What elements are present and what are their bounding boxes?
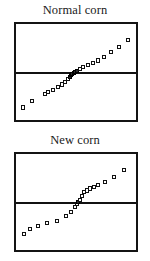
data-point bbox=[85, 188, 89, 192]
data-point bbox=[81, 65, 85, 69]
data-point bbox=[45, 221, 49, 225]
chart-panel-new-corn: New corn bbox=[0, 130, 150, 261]
chart-title-new-corn: New corn bbox=[0, 132, 150, 148]
data-point bbox=[126, 38, 130, 42]
data-point bbox=[102, 55, 106, 59]
data-point bbox=[103, 180, 107, 184]
reference-line-new-corn bbox=[16, 202, 136, 204]
data-point bbox=[43, 92, 47, 96]
data-point bbox=[88, 186, 92, 190]
data-point bbox=[92, 185, 96, 189]
data-point bbox=[51, 88, 55, 92]
reference-line-normal-corn bbox=[16, 72, 136, 74]
data-point bbox=[96, 183, 100, 187]
data-point bbox=[63, 80, 67, 84]
data-point bbox=[55, 219, 59, 223]
plot-frame-normal-corn bbox=[14, 22, 138, 122]
plot-area-new-corn bbox=[16, 154, 136, 250]
figure-root: Normal corn New corn bbox=[0, 0, 150, 261]
chart-panel-normal-corn: Normal corn bbox=[0, 0, 150, 130]
data-point bbox=[21, 105, 25, 109]
data-point bbox=[109, 50, 113, 54]
data-point bbox=[96, 58, 100, 62]
data-point bbox=[30, 99, 34, 103]
plot-frame-new-corn bbox=[14, 152, 138, 252]
data-point bbox=[78, 67, 82, 71]
data-point bbox=[28, 227, 32, 231]
data-point bbox=[22, 232, 26, 236]
data-point bbox=[80, 194, 84, 198]
data-point bbox=[82, 190, 86, 194]
data-point bbox=[46, 90, 50, 94]
data-point bbox=[73, 205, 77, 209]
data-point bbox=[69, 210, 73, 214]
data-point bbox=[66, 77, 70, 81]
plot-area-normal-corn bbox=[16, 24, 136, 120]
data-point bbox=[36, 224, 40, 228]
chart-title-normal-corn: Normal corn bbox=[0, 2, 150, 18]
data-point bbox=[122, 168, 126, 172]
data-point bbox=[112, 175, 116, 179]
data-point bbox=[86, 63, 90, 67]
data-point bbox=[56, 85, 60, 89]
data-point bbox=[60, 82, 64, 86]
data-point bbox=[117, 45, 121, 49]
data-point bbox=[91, 61, 95, 65]
data-point bbox=[68, 75, 72, 79]
data-point bbox=[64, 214, 68, 218]
